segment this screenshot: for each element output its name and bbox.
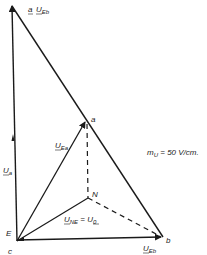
dashed-n-a xyxy=(87,124,88,198)
scale-label: mU = 50 V/cm. xyxy=(147,148,199,158)
label-u-ea: UEa xyxy=(55,141,69,151)
point-label-a: a xyxy=(91,115,96,124)
svg-text:UEb: UEb xyxy=(36,5,50,15)
label-u-a: Ua xyxy=(3,166,13,176)
point-label-b: b xyxy=(166,236,171,245)
svg-text:Ua: Ua xyxy=(3,166,13,176)
svg-text:UNE = U0: UNE = U0 xyxy=(64,215,97,225)
point-label-n: N xyxy=(92,190,98,199)
point-label-e: E xyxy=(6,229,12,238)
point-label-c: c xyxy=(8,247,12,255)
svg-text:a: a xyxy=(28,5,33,14)
vector-u-a xyxy=(12,6,17,241)
svg-text:UEa: UEa xyxy=(55,141,69,151)
phasor-diagram: a UEb UEa Ua UNE = U0 UEb a N E c b mU =… xyxy=(0,0,207,255)
label-u-eb-bottom: UEb xyxy=(143,244,157,254)
svg-text:UEb: UEb xyxy=(143,244,157,254)
vector-u-eb xyxy=(17,237,161,240)
label-u-ne: UNE = U0 xyxy=(64,215,99,225)
label-a-u-eb-top: a UEb xyxy=(28,5,50,15)
vector-a-u-eb xyxy=(12,6,163,237)
svg-text:mU = 50 V/cm.: mU = 50 V/cm. xyxy=(147,148,199,158)
